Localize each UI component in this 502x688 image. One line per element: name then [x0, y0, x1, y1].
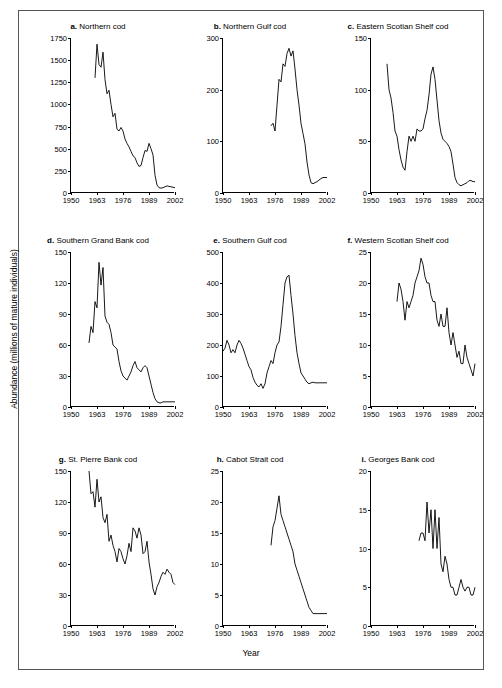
panel-e: e. Southern Gulf cod01002003004005001950… [170, 236, 330, 431]
panel-title-i: i. Georges Bank cod [318, 455, 478, 464]
series-line-b [223, 38, 327, 193]
y-tick-label: 60 [59, 560, 67, 569]
y-tick-label: 300 [206, 34, 219, 43]
y-tick-label: 150 [54, 248, 67, 257]
plot-area-d: 030609012015019501963197619892002 [70, 252, 174, 407]
x-tick-label: 1976 [115, 196, 132, 205]
series-line-c [371, 38, 475, 193]
panel-title-b: b. Northern Gulf cod [170, 22, 330, 31]
panel-g: g. St. Pierre Bank cod030609012015019501… [18, 455, 178, 650]
x-tick-label: 1950 [63, 410, 80, 419]
y-tick-label: 10 [359, 341, 367, 350]
y-tick-label: 100 [206, 372, 219, 381]
plot-area-b: 010020030019501963197619892002 [222, 38, 326, 193]
panel-i: i. Georges Bank cod051015201950196319761… [318, 455, 478, 650]
y-tick-label: 500 [54, 144, 67, 153]
y-tick-label: 1750 [50, 34, 67, 43]
plot-area-h: 051015202519501963197619892002 [222, 471, 326, 626]
y-tick-label: 200 [206, 85, 219, 94]
x-tick-label: 1950 [215, 410, 232, 419]
panel-title-d: d. Southern Grand Bank cod [18, 236, 178, 245]
panel-title-a: a. Northern cod [18, 22, 178, 31]
x-tick-label: 1976 [415, 196, 432, 205]
panel-c: c. Eastern Scotian Shelf cod050100150195… [318, 22, 478, 217]
x-tick-label: 1963 [389, 410, 406, 419]
y-tick-label: 750 [54, 122, 67, 131]
y-tick-label: 15 [359, 310, 367, 319]
x-tick-label: 1976 [267, 196, 284, 205]
x-tick-label: 1989 [441, 410, 458, 419]
y-tick-label: 10 [359, 544, 367, 553]
y-tick-label: 150 [54, 467, 67, 476]
x-tick-label: 1950 [363, 196, 380, 205]
y-tick-label: 250 [54, 166, 67, 175]
x-tick-label: 1989 [293, 196, 310, 205]
x-tick-mark [475, 192, 476, 195]
x-tick-label: 1950 [215, 196, 232, 205]
y-tick-label: 25 [359, 248, 367, 257]
series-line-f [371, 252, 475, 407]
y-tick-label: 5 [363, 583, 367, 592]
panel-d: d. Southern Grand Bank cod03060901201501… [18, 236, 178, 431]
x-tick-label: 1989 [141, 410, 158, 419]
panel-f: f. Western Scotian Shelf cod051015202519… [318, 236, 478, 431]
x-tick-mark [475, 625, 476, 628]
x-tick-mark [475, 406, 476, 409]
x-tick-label: 1963 [389, 629, 406, 638]
y-tick-label: 90 [59, 529, 67, 538]
x-tick-label: 1976 [415, 410, 432, 419]
series-line-i [371, 471, 475, 626]
x-tick-label: 1976 [115, 629, 132, 638]
x-tick-label: 1976 [115, 410, 132, 419]
y-tick-label: 20 [359, 279, 367, 288]
x-tick-label: 1963 [389, 196, 406, 205]
y-tick-label: 30 [59, 372, 67, 381]
plot-area-e: 010020030040050019501963197619892002 [222, 252, 326, 407]
x-tick-label: 1989 [293, 629, 310, 638]
y-tick-label: 50 [359, 137, 367, 146]
panel-title-e: e. Southern Gulf cod [170, 236, 330, 245]
y-tick-label: 5 [363, 372, 367, 381]
figure: Abundance (millions of mature individual… [0, 0, 502, 688]
y-tick-label: 10 [211, 560, 219, 569]
y-tick-label: 500 [206, 248, 219, 257]
x-tick-label: 1963 [89, 410, 106, 419]
x-tick-label: 2002 [467, 410, 484, 419]
series-line-e [223, 252, 327, 407]
plot-area-f: 051015202519501963197619892002 [370, 252, 474, 407]
y-tick-label: 20 [359, 467, 367, 476]
x-tick-label: 1950 [363, 629, 380, 638]
y-tick-label: 120 [54, 498, 67, 507]
x-tick-label: 1950 [363, 410, 380, 419]
y-tick-label: 200 [206, 341, 219, 350]
plot-area-c: 05010015019501963197619892002 [370, 38, 474, 193]
plot-area-a: 0250500750100012501500175019501963197619… [70, 38, 174, 193]
x-tick-label: 1963 [89, 629, 106, 638]
x-tick-label: 2002 [467, 196, 484, 205]
y-tick-label: 25 [211, 467, 219, 476]
panel-b: b. Northern Gulf cod01002003001950196319… [170, 22, 330, 217]
series-line-h [223, 471, 327, 626]
x-tick-label: 1989 [141, 629, 158, 638]
plot-area-g: 030609012015019501963197619892002 [70, 471, 174, 626]
x-tick-label: 1976 [267, 410, 284, 419]
x-tick-label: 1963 [241, 196, 258, 205]
y-tick-label: 150 [354, 34, 367, 43]
x-tick-label: 1950 [63, 629, 80, 638]
x-tick-label: 1989 [441, 629, 458, 638]
y-tick-label: 100 [206, 137, 219, 146]
y-tick-label: 20 [211, 498, 219, 507]
x-tick-label: 1989 [441, 196, 458, 205]
y-tick-label: 300 [206, 310, 219, 319]
x-tick-label: 2002 [467, 629, 484, 638]
x-tick-label: 1963 [241, 410, 258, 419]
x-tick-label: 1976 [415, 629, 432, 638]
x-tick-label: 1950 [215, 629, 232, 638]
y-tick-label: 60 [59, 341, 67, 350]
x-tick-label: 1963 [241, 629, 258, 638]
series-line-d [71, 252, 175, 407]
plot-area-i: 0510152019501963197619892002 [370, 471, 474, 626]
x-tick-label: 1963 [89, 196, 106, 205]
x-tick-label: 1976 [267, 629, 284, 638]
y-tick-label: 90 [59, 310, 67, 319]
